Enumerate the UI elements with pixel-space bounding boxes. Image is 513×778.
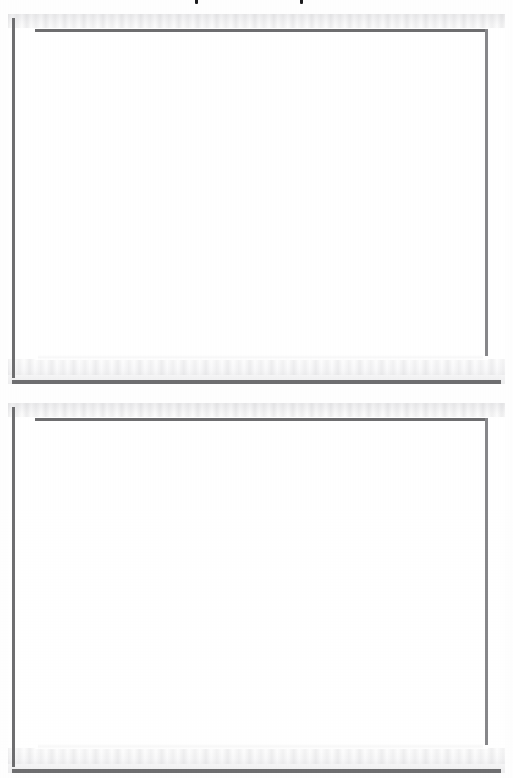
panel-blank-content-area: [35, 419, 488, 749]
frame-rule-right: [485, 418, 488, 745]
clipped-text-descender-mark: [195, 0, 198, 4]
frame-rule-top: [35, 29, 488, 32]
frame-rule-bottom: [12, 769, 501, 773]
frame-rule-left: [12, 407, 15, 767]
frame-rule-bottom: [12, 380, 501, 384]
panel-scan-crease: [38, 744, 483, 749]
framed-panel: [8, 14, 505, 384]
clipped-text-descender-mark: [300, 0, 303, 4]
frame-rule-right: [485, 29, 488, 356]
panel-scan-crease: [38, 355, 483, 360]
scanned-page: [0, 0, 513, 778]
framed-panel: [8, 403, 505, 773]
panel-blank-content-area: [35, 30, 488, 360]
frame-rule-top: [35, 418, 488, 421]
frame-rule-left: [12, 18, 15, 378]
